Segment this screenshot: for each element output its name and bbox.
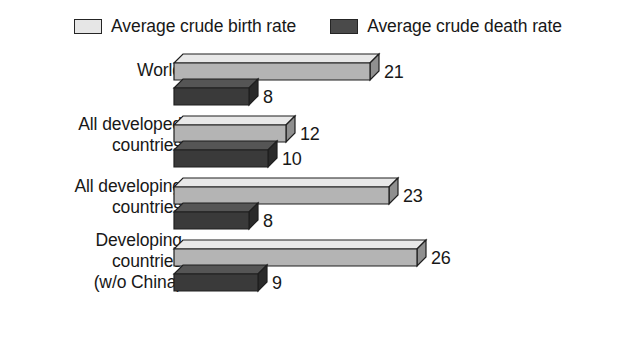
bar-birth-rate (174, 116, 297, 142)
chart-legend: Average crude birth rate Average crude d… (0, 8, 636, 44)
bar-birth-rate (174, 54, 381, 80)
chart-plot-area: World218All developed countries1210All d… (0, 48, 636, 344)
value-label-death-rate: 9 (272, 273, 282, 294)
legend-label-death-rate: Average crude death rate (367, 16, 562, 37)
bar-birth-rate (174, 178, 400, 204)
category-label: Developing countries (w/o China) (0, 230, 182, 293)
value-label-birth-rate: 12 (300, 124, 320, 145)
value-label-birth-rate: 26 (431, 248, 451, 269)
legend-entry-death-rate: Average crude death rate (330, 16, 562, 37)
value-label-birth-rate: 23 (403, 186, 423, 207)
category-label: All developed countries (0, 114, 182, 156)
category-label: World (0, 60, 182, 81)
bar-death-rate (174, 141, 279, 167)
bar-death-rate (174, 203, 260, 229)
bar-death-rate (174, 79, 260, 105)
value-label-death-rate: 10 (282, 149, 302, 170)
bar-death-rate (174, 265, 269, 291)
legend-entry-birth-rate: Average crude birth rate (74, 16, 296, 37)
legend-swatch-death-rate-icon (330, 19, 358, 34)
legend-label-birth-rate: Average crude birth rate (111, 16, 296, 37)
crude-birth-death-rate-chart: Average crude birth rate Average crude d… (0, 0, 636, 344)
bar-birth-rate (174, 240, 428, 266)
value-label-birth-rate: 21 (384, 62, 404, 83)
value-label-death-rate: 8 (263, 87, 273, 108)
value-label-death-rate: 8 (263, 211, 273, 232)
category-label: All developing countries (0, 176, 182, 218)
legend-swatch-birth-rate-icon (74, 19, 102, 34)
